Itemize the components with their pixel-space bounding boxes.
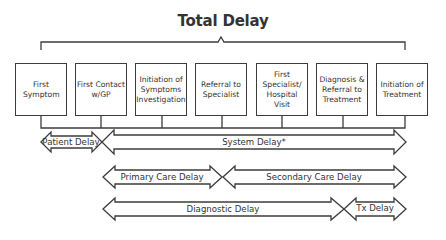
step-first-contact-gp: First Contact w/GP (75, 63, 127, 116)
step-label: First Contact w/GP (77, 80, 125, 100)
step-initiation-treatment: Initiation of Treatment (376, 63, 428, 116)
step-label: First Specialist/ Hospital Visit (258, 70, 306, 110)
step-label: Initiation of Symptoms Investigation (136, 75, 185, 105)
step-label: First Symptom (23, 80, 59, 100)
step-first-specialist-visit: First Specialist/ Hospital Visit (256, 63, 308, 116)
total-delay-brace (41, 37, 405, 50)
step-label: Initiation of Treatment (378, 80, 426, 100)
step-first-symptom: First Symptom (15, 63, 67, 116)
step-label: Diagnosis & Referral to Treatment (318, 75, 366, 105)
primary-care-delay-label: Primary Care Delay (120, 172, 203, 182)
step-referral-specialist: Referral to Specialist (195, 63, 247, 116)
step-diagnosis-referral: Diagnosis & Referral to Treatment (316, 63, 368, 116)
step-label: Referral to Specialist (197, 80, 245, 100)
diagnostic-delay-label: Diagnostic Delay (187, 204, 260, 214)
step-connector (41, 116, 405, 128)
step-initiation-investigation: Initiation of Symptoms Investigation (135, 63, 187, 116)
secondary-care-delay-label: Secondary Care Delay (266, 172, 362, 182)
system-delay-label: System Delay* (222, 137, 286, 147)
tx-delay-label: Tx Delay (356, 203, 394, 213)
patient-delay-label: Patient Delay (42, 137, 99, 147)
